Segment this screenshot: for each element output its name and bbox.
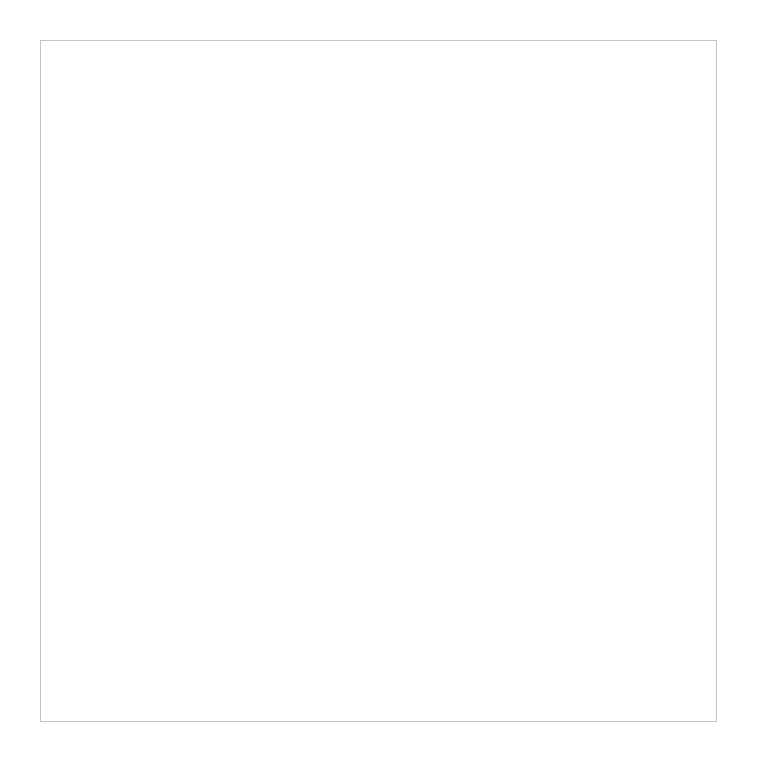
clipped-header-text: [55, 0, 695, 6]
game-board[interactable]: [40, 40, 717, 722]
